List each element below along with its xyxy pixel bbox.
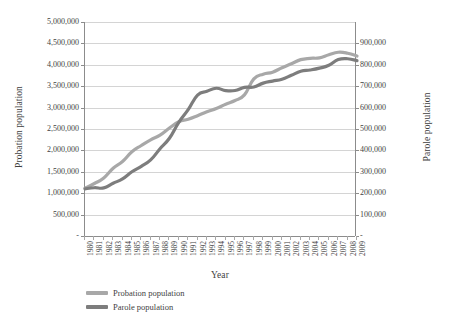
gridline	[85, 236, 355, 237]
y-axis-right-tickmark	[356, 150, 359, 151]
x-axis-tickmark	[131, 236, 132, 240]
legend-item: Parole population	[86, 300, 185, 314]
y-axis-left-tick-label: 500,000	[19, 211, 79, 219]
x-axis-tickmark	[337, 236, 338, 240]
x-axis-tick-label: 1985	[134, 241, 142, 256]
x-axis-tickmark	[272, 236, 273, 240]
y-axis-right-tick-label: 300,000	[360, 168, 420, 176]
y-axis-right-tick-label: 800,000	[360, 61, 420, 69]
legend-swatch-icon	[86, 291, 108, 295]
y-axis-left-tick-label: 1,000,000	[19, 189, 79, 197]
legend-label: Parole population	[113, 302, 173, 312]
series-line	[85, 52, 357, 188]
x-axis-tick-label: 1988	[162, 241, 170, 256]
x-axis-tick-label: 2004	[312, 241, 320, 256]
data-lines	[85, 22, 357, 236]
y-axis-left-tick-label: 2,000,000	[19, 146, 79, 154]
x-axis-tick-label: 1986	[143, 241, 151, 256]
y-axis-left-tickmark	[81, 172, 84, 173]
y-axis-right-tickmark	[356, 86, 359, 87]
y-axis-left-tickmark	[81, 86, 84, 87]
x-axis-tickmark	[150, 236, 151, 240]
x-axis-tick-label: 1981	[96, 241, 104, 256]
x-axis-tick-label: 2006	[331, 241, 339, 256]
y-axis-left-tick-label: -	[19, 232, 79, 240]
y-axis-left-tick-label: 2,500,000	[19, 125, 79, 133]
x-axis-tick-label: 1987	[153, 241, 161, 256]
y-axis-right-tickmark	[356, 108, 359, 109]
y-axis-left-tick-label: 3,000,000	[19, 104, 79, 112]
y-axis-left-tick-label: 1,500,000	[19, 168, 79, 176]
legend-label: Probation population	[113, 288, 185, 298]
x-axis-tickmark	[253, 236, 254, 240]
x-axis-tickmark	[318, 236, 319, 240]
x-axis-tick-label: 1992	[200, 241, 208, 256]
x-axis-tick-label: 2000	[275, 241, 283, 256]
x-axis-tick-label: 1982	[106, 241, 114, 256]
y-axis-right-tick-label: 600,000	[360, 104, 420, 112]
y-axis-left-tick-label: 4,500,000	[19, 39, 79, 47]
y-axis-right-tick-label: 200,000	[360, 189, 420, 197]
plot-area	[84, 22, 356, 236]
x-axis-tickmark	[215, 236, 216, 240]
x-axis-tick-label: 2005	[321, 241, 329, 256]
x-axis-tickmark	[103, 236, 104, 240]
x-axis-tickmark	[328, 236, 329, 240]
x-axis-tickmark	[300, 236, 301, 240]
x-axis-tick-label: 2008	[350, 241, 358, 256]
x-axis-tickmark	[347, 236, 348, 240]
x-axis-tickmark	[84, 236, 85, 240]
y-axis-right-tick-label: 900,000	[360, 39, 420, 47]
x-axis-tickmark	[281, 236, 282, 240]
y-axis-right-tickmark	[356, 65, 359, 66]
x-axis-tick-label: 2002	[293, 241, 301, 256]
x-axis-tick-label: 2009	[359, 241, 367, 256]
x-axis-tickmark	[290, 236, 291, 240]
y-axis-right-tickmark	[356, 43, 359, 44]
x-axis-tickmark	[168, 236, 169, 240]
series-line	[85, 59, 357, 189]
y-axis-right-title: Parole population	[422, 52, 432, 202]
x-axis-title: Year	[84, 270, 356, 280]
y-axis-left-tickmark	[81, 150, 84, 151]
x-axis-tickmark	[243, 236, 244, 240]
y-axis-left-tickmark	[81, 215, 84, 216]
y-axis-left-tickmark	[81, 129, 84, 130]
x-axis-tick-label: 1980	[87, 241, 95, 256]
chart-figure: Probation population Parole population Y…	[0, 0, 453, 323]
x-axis-tickmark	[262, 236, 263, 240]
y-axis-left-tickmark	[81, 193, 84, 194]
y-axis-left-tick-label: 3,500,000	[19, 82, 79, 90]
x-axis-tickmark	[206, 236, 207, 240]
x-axis-tick-label: 1998	[256, 241, 264, 256]
x-axis-tick-label: 1984	[125, 241, 133, 256]
y-axis-right-tickmark	[356, 129, 359, 130]
y-axis-right-tick-label: 400,000	[360, 146, 420, 154]
x-axis-tickmark	[356, 236, 357, 240]
y-axis-right-tick-label: 500,000	[360, 125, 420, 133]
x-axis-tick-label: 1995	[228, 241, 236, 256]
x-axis-tickmark	[112, 236, 113, 240]
x-axis-tick-label: 1983	[115, 241, 123, 256]
y-axis-left-tickmark	[81, 22, 84, 23]
x-axis-tickmark	[309, 236, 310, 240]
x-axis-tick-label: 1991	[190, 241, 198, 256]
x-axis-tickmark	[197, 236, 198, 240]
x-axis-tick-label: 1994	[218, 241, 226, 256]
x-axis-tickmark	[178, 236, 179, 240]
x-axis-tickmark	[225, 236, 226, 240]
y-axis-left-tickmark	[81, 65, 84, 66]
x-axis-tick-label: 1993	[209, 241, 217, 256]
y-axis-right-tick-label: -	[360, 232, 420, 240]
x-axis-tick-label: 1990	[181, 241, 189, 256]
y-axis-right-tick-label: 700,000	[360, 82, 420, 90]
x-axis-tickmark	[140, 236, 141, 240]
x-axis-tick-label: 2003	[303, 241, 311, 256]
x-axis-tickmark	[122, 236, 123, 240]
y-axis-left-tick-label: 4,000,000	[19, 61, 79, 69]
y-axis-left-tickmark	[81, 43, 84, 44]
legend-item: Probation population	[86, 286, 185, 300]
y-axis-right-tickmark	[356, 172, 359, 173]
y-axis-right-tickmark	[356, 215, 359, 216]
y-axis-right-tickmark	[356, 193, 359, 194]
